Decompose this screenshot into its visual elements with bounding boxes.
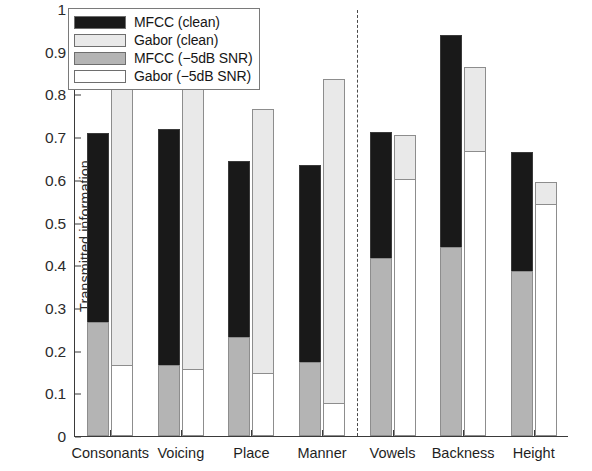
bar-gabor-noisy (252, 373, 274, 436)
y-axis-tick-label: 0 (58, 428, 75, 446)
bar-gabor-noisy (111, 365, 133, 436)
x-axis-tick-mark (534, 430, 535, 436)
x-axis-tick-mark (322, 430, 323, 436)
bar-mfcc-noisy (370, 258, 392, 436)
consonant-vowel-divider (357, 10, 358, 436)
bar-gabor-clean (394, 135, 416, 436)
bar-gabor-noisy (323, 403, 345, 436)
x-axis-category-label: Vowels (370, 445, 416, 461)
bar-mfcc-noisy (158, 365, 180, 436)
y-axis-tick-label: 0.6 (45, 172, 75, 190)
legend-item-label: Gabor (clean) (134, 32, 218, 48)
x-axis-tick-mark (463, 430, 464, 436)
x-axis-category-label: Place (233, 445, 269, 461)
bar-mfcc-clean (370, 132, 392, 436)
legend-item: Gabor (−5dB SNR) (74, 67, 253, 85)
y-axis-tick-mark (75, 308, 81, 309)
y-axis-tick-label: 0.7 (45, 129, 75, 147)
bar-gabor-clean (535, 182, 557, 436)
legend-swatch-icon (74, 34, 126, 47)
legend-item-label: MFCC (clean) (134, 14, 220, 30)
bar-mfcc-clean (511, 152, 533, 436)
chart-legend: MFCC (clean)Gabor (clean)MFCC (−5dB SNR)… (68, 8, 260, 90)
y-axis-tick-label: 0.2 (45, 343, 75, 361)
legend-swatch-icon (74, 70, 126, 83)
x-axis-category-label: Backness (432, 445, 495, 461)
x-axis-tick-mark (181, 430, 182, 436)
bar-mfcc-noisy (511, 271, 533, 436)
y-axis-tick-label: 0.1 (45, 385, 75, 403)
bar-mfcc-clean (87, 133, 109, 436)
legend-item: MFCC (−5dB SNR) (74, 49, 253, 67)
x-axis-tick-mark (251, 430, 252, 436)
x-axis-category-label: Manner (297, 445, 346, 461)
y-axis-tick-mark (75, 138, 81, 139)
y-axis-tick-label: 0.3 (45, 300, 75, 318)
x-axis-tick-mark (393, 430, 394, 436)
x-axis-category-label: Consonants (72, 445, 149, 461)
bar-gabor-noisy (394, 179, 416, 436)
bar-mfcc-clean (440, 35, 462, 436)
legend-item-label: MFCC (−5dB SNR) (134, 50, 253, 66)
legend-swatch-icon (74, 52, 126, 65)
bar-gabor-noisy (182, 369, 204, 436)
bar-mfcc-noisy (228, 337, 250, 436)
y-axis-tick-label: 0.5 (45, 215, 75, 233)
legend-item-label: Gabor (−5dB SNR) (134, 68, 251, 84)
bar-mfcc-clean (158, 129, 180, 436)
bar-mfcc-noisy (440, 247, 462, 436)
bar-gabor-clean (323, 79, 345, 436)
bar-mfcc-noisy (299, 362, 321, 436)
legend-swatch-icon (74, 16, 126, 29)
y-axis-tick-mark (75, 351, 81, 352)
y-axis-tick-mark (75, 437, 81, 438)
legend-item: MFCC (clean) (74, 13, 253, 31)
y-axis-tick-mark (75, 394, 81, 395)
bar-mfcc-clean (299, 165, 321, 436)
bar-gabor-clean (464, 67, 486, 436)
y-axis-tick-mark (75, 95, 81, 96)
bar-gabor-clean (111, 88, 133, 436)
y-axis-tick-label: 0.4 (45, 257, 75, 275)
bar-gabor-clean (182, 82, 204, 436)
bar-gabor-noisy (464, 151, 486, 436)
x-axis-tick-mark (110, 430, 111, 436)
chart-root: Transmitted information 00.10.20.30.40.5… (0, 0, 592, 471)
bar-mfcc-clean (228, 161, 250, 436)
y-axis-tick-mark (75, 223, 81, 224)
y-axis-tick-mark (75, 266, 81, 267)
bar-gabor-clean (252, 109, 274, 436)
bar-gabor-noisy (535, 204, 557, 436)
x-axis-category-label: Voicing (157, 445, 204, 461)
x-axis-category-label: Height (513, 445, 555, 461)
y-axis-tick-mark (75, 180, 81, 181)
bar-mfcc-noisy (87, 322, 109, 436)
legend-item: Gabor (clean) (74, 31, 253, 49)
